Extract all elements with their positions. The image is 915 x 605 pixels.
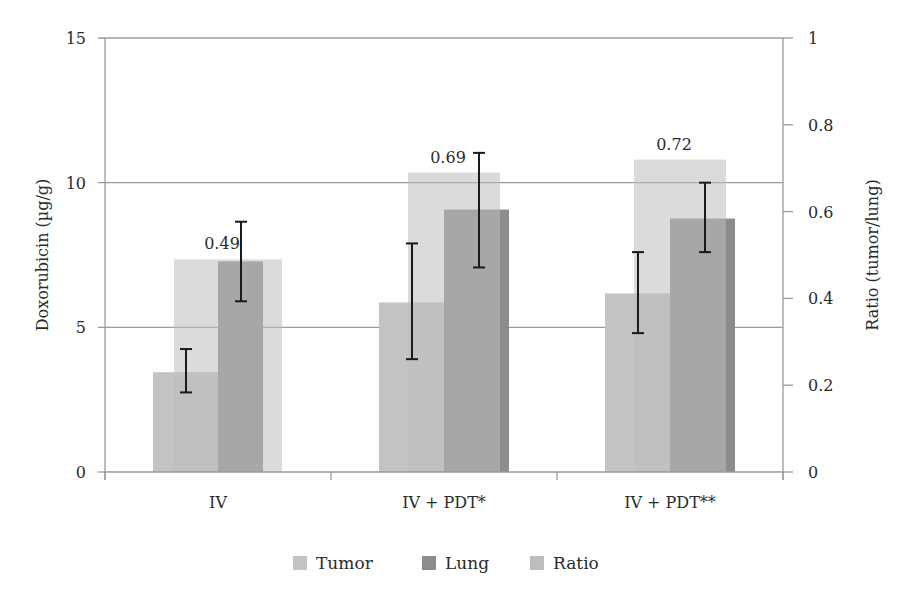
y-tick-label: 15 [66,29,86,48]
bar-group [605,160,735,472]
y-right-tick-label: 0 [808,463,818,482]
y-tick-label: 5 [76,318,86,337]
bar-group [379,173,509,472]
ratio-value-label: 0.69 [430,148,466,167]
legend-swatch [293,556,307,570]
ratio-bar [174,259,282,472]
legend-label: Ratio [553,553,599,573]
ratio-value-label: 0.49 [204,234,240,253]
ratio-bar [634,160,726,472]
y-tick-label: 0 [76,463,86,482]
x-category-label: IV [209,493,227,512]
y-axis-title: Doxorubicin (µg/g) [33,179,52,332]
y-right-tick-label: 0.2 [808,376,833,395]
y-right-tick-label: 0.4 [808,289,833,308]
chart: 05101500.20.40.60.810.49IV0.69IV + PDT*0… [0,0,915,605]
legend-swatch [422,556,436,570]
bar-group [153,259,282,472]
legend: TumorLungRatio [293,553,599,573]
legend-label: Lung [445,553,489,573]
x-category-label: IV + PDT** [624,493,716,512]
bars [153,160,735,472]
legend-swatch [530,556,544,570]
y-right-tick-label: 0.8 [808,116,833,135]
legend-item-tumor: Tumor [293,553,374,573]
y-right-axis-title: Ratio (tumor/lung) [863,179,882,330]
x-category-label: IV + PDT* [402,493,486,512]
y-right-tick-label: 0.6 [808,203,833,222]
ratio-bar [408,173,500,472]
y-right-tick-label: 1 [808,29,818,48]
legend-item-ratio: Ratio [530,553,599,573]
legend-item-lung: Lung [422,553,489,573]
y-tick-label: 10 [66,174,86,193]
legend-label: Tumor [316,553,374,573]
ratio-value-label: 0.72 [656,135,692,154]
